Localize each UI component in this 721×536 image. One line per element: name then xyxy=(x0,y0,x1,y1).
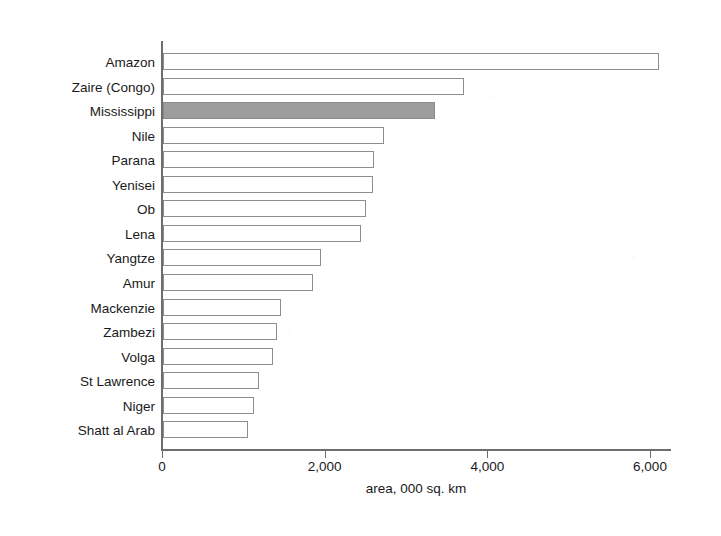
category-label: Yangtze xyxy=(106,250,155,267)
category-label: Lena xyxy=(125,226,155,243)
bar xyxy=(163,348,273,365)
category-label: Amazon xyxy=(105,54,155,71)
bar xyxy=(163,151,374,168)
x-tick-mark xyxy=(487,451,488,458)
bar xyxy=(163,274,313,291)
category-label: Amur xyxy=(123,275,155,292)
bar xyxy=(163,323,277,340)
bar xyxy=(163,372,259,389)
x-tick-label: 4,000 xyxy=(470,459,504,475)
bar xyxy=(163,127,384,144)
x-tick-mark xyxy=(650,451,651,458)
x-tick-label: 6,000 xyxy=(633,459,667,475)
x-axis-line xyxy=(161,449,671,451)
category-label: Ob xyxy=(137,201,155,218)
bar xyxy=(163,200,366,217)
category-label: Niger xyxy=(123,398,155,415)
bar-chart: AmazonZaire (Congo)MississippiNileParana… xyxy=(0,0,721,536)
category-label: Nile xyxy=(132,128,155,145)
category-label: Yenisei xyxy=(112,177,155,194)
category-label: Zaire (Congo) xyxy=(72,79,155,96)
bar xyxy=(163,249,321,266)
bar xyxy=(163,397,254,414)
bar xyxy=(163,53,659,70)
category-label: Volga xyxy=(121,349,155,366)
bar xyxy=(163,421,248,438)
x-tick-label: 0 xyxy=(158,459,166,475)
category-label: Parana xyxy=(111,152,155,169)
bar xyxy=(163,225,361,242)
bar xyxy=(163,78,464,95)
x-tick-label: 2,000 xyxy=(308,459,342,475)
category-label: Shatt al Arab xyxy=(78,422,155,439)
bar xyxy=(163,299,281,316)
bar xyxy=(163,176,373,193)
category-label: Mississippi xyxy=(90,103,155,120)
bar xyxy=(163,102,435,119)
category-label: St Lawrence xyxy=(80,373,155,390)
x-tick-mark xyxy=(325,451,326,458)
x-tick-mark xyxy=(162,451,163,458)
category-label: Mackenzie xyxy=(90,300,155,317)
category-label: Zambezi xyxy=(103,324,155,341)
x-axis-title: area, 000 sq. km xyxy=(366,481,467,497)
